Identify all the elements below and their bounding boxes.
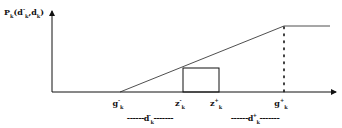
tick-label-z-plus: z+k bbox=[210, 99, 222, 107]
target-zone-rect bbox=[183, 68, 219, 92]
range-label-d-minus: ------d-k------- bbox=[127, 114, 173, 122]
tick-label-z-minus: z-k bbox=[175, 99, 185, 107]
diagram-canvas bbox=[0, 0, 342, 128]
penalty-slope-line bbox=[120, 26, 284, 92]
y-axis-label: Pk(d-k,dk) bbox=[4, 8, 44, 16]
tick-label-g-plus: g+k bbox=[274, 99, 287, 107]
tick-label-g-minus: g-k bbox=[112, 99, 123, 107]
range-label-d-plus: ------d+k------- bbox=[231, 114, 279, 122]
